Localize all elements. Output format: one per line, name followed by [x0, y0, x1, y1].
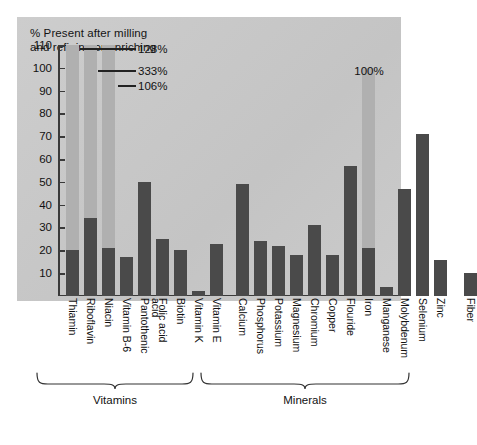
- bar-overflow-iron: [362, 68, 375, 248]
- y-tick-label-60: 60: [39, 153, 52, 165]
- cat-label-chromium: Chromium: [309, 298, 321, 346]
- cat-label-vitamin-k: Vitamin K: [193, 298, 205, 343]
- bar-flouride: [344, 166, 357, 296]
- bar-riboflavin: [84, 218, 97, 296]
- bar-copper: [326, 255, 339, 296]
- y-tick-100: [59, 68, 65, 70]
- y-tick-40: [59, 205, 65, 207]
- callout-riboflavin: 333%: [98, 64, 167, 77]
- cat-label-potassium: Potassium: [273, 298, 285, 347]
- cat-label-calcium: Calcium: [237, 298, 249, 336]
- cat-label-vitamin-b6: Vitamin B-6: [121, 298, 133, 352]
- y-tick-label-30: 30: [39, 221, 52, 233]
- group-braces: Vitamins Minerals: [18, 372, 410, 432]
- callout-label-iron-100: 100%: [354, 65, 383, 77]
- x-axis-category-labels: Thiamin Riboflavin Niacin Vitamin B-6 Pa…: [58, 298, 401, 370]
- y-tick-label-50: 50: [39, 176, 52, 188]
- bar-niacin: [102, 248, 115, 296]
- y-tick-110: [59, 45, 65, 47]
- y-tick-70: [59, 136, 65, 138]
- y-tick-label-110: 110: [34, 39, 52, 51]
- brace-label-vitamins: Vitamins: [93, 394, 137, 406]
- bar-folic-acid: [156, 239, 169, 296]
- callout-label-128: 128%: [138, 43, 167, 55]
- callout-leader-line-3: [118, 85, 136, 87]
- bar-selenium: [416, 134, 429, 296]
- y-tick-label-20: 20: [39, 244, 52, 256]
- bar-zinc: [434, 260, 447, 297]
- bar-molybdenum: [398, 189, 411, 296]
- bar-fiber: [464, 273, 477, 296]
- y-tick-20: [59, 250, 65, 252]
- y-tick-label-90: 90: [39, 85, 52, 97]
- brace-label-minerals: Minerals: [283, 394, 326, 406]
- bar-manganese: [380, 287, 393, 296]
- bar-vitamin-k: [192, 291, 205, 296]
- y-tick-90: [59, 91, 65, 93]
- cat-label-thiamin: Thiamin: [67, 298, 79, 335]
- callout-leader-line-2: [98, 70, 136, 72]
- cat-label-selenium: Selenium: [417, 298, 429, 342]
- bar-potassium: [272, 246, 285, 296]
- cat-label-flouride: Flouride: [345, 298, 357, 336]
- bar-vitamin-e: [210, 244, 223, 296]
- bar-phosphorus: [254, 241, 267, 296]
- cat-label-niacin: Niacin: [103, 298, 115, 327]
- y-tick-50: [59, 182, 65, 184]
- callout-niacin: 106%: [118, 79, 167, 92]
- y-tick-label-100: 100: [33, 62, 52, 74]
- y-tick-label-40: 40: [39, 199, 52, 211]
- y-tick-label-70: 70: [39, 130, 52, 142]
- brace-minerals: [200, 372, 410, 390]
- chart-title-line-1: % Present after milling: [30, 26, 280, 40]
- cat-label-zinc: Zinc: [435, 298, 447, 318]
- cat-label-folic-acid: Folic acid: [157, 298, 169, 342]
- bar-magnesium: [290, 255, 303, 296]
- bar-overflow-riboflavin: [84, 45, 97, 218]
- y-axis-labels: 110 100 90 80 70 60 50 40 30 20 10: [0, 45, 52, 296]
- cat-label-iron: Iron: [363, 298, 375, 316]
- callout-leader-line-1: [80, 48, 136, 50]
- y-tick-30: [59, 227, 65, 229]
- y-axis-line: [58, 45, 60, 296]
- brace-vitamins: [36, 372, 194, 390]
- cat-label-molybdenum: Molybdenum: [399, 298, 411, 358]
- y-tick-label-10: 10: [39, 267, 52, 279]
- cat-label-biotin: Biotin: [175, 298, 187, 324]
- cat-label-riboflavin: Riboflavin: [85, 298, 97, 344]
- y-tick-10: [59, 273, 65, 275]
- bar-vitamin-b6: [120, 257, 133, 296]
- cat-label-vitamin-e: Vitamin E: [211, 298, 223, 343]
- cat-label-phosphorus: Phosphorus: [255, 298, 267, 354]
- y-tick-80: [59, 113, 65, 115]
- callout-label-333: 333%: [138, 65, 167, 77]
- bar-chromium: [308, 225, 321, 296]
- bar-overflow-thiamin: [66, 45, 79, 250]
- bar-iron: [362, 248, 375, 296]
- cat-label-manganese: Manganese: [381, 298, 393, 353]
- bar-calcium: [236, 184, 249, 296]
- bar-pantothenic-acid: [138, 182, 151, 296]
- callout-thiamin: 128%: [80, 42, 167, 55]
- callout-label-106: 106%: [138, 80, 167, 92]
- cat-label-copper: Copper: [327, 298, 339, 332]
- cat-label-magnesium: Magnesium: [291, 298, 303, 352]
- cat-label-fiber: Fiber: [465, 298, 477, 322]
- y-tick-60: [59, 159, 65, 161]
- bar-biotin: [174, 250, 187, 296]
- bar-thiamin: [66, 250, 79, 296]
- y-tick-label-80: 80: [39, 107, 52, 119]
- plot-area: 128% 333% 106% 100%: [58, 45, 401, 296]
